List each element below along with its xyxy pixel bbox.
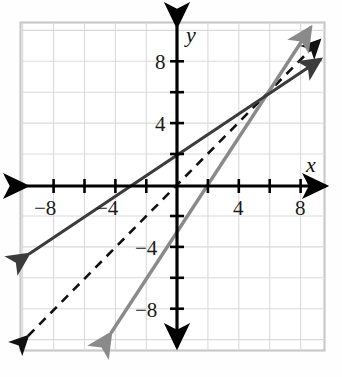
x-tick-label-neg8: −8 — [34, 196, 56, 221]
x-axis-label: x — [306, 152, 316, 178]
coordinate-plane-figure: −8 −4 4 8 8 4 −4 −8 y x — [0, 0, 342, 377]
y-tick-label-neg8: −8 — [135, 298, 157, 323]
y-axis-label: y — [186, 22, 196, 48]
graph-canvas — [0, 0, 342, 377]
x-tick-label-4: 4 — [233, 196, 244, 221]
y-tick-label-neg4: −4 — [135, 236, 157, 261]
y-tick-label-4: 4 — [155, 112, 166, 137]
x-tick-label-neg4: −4 — [96, 196, 118, 221]
x-tick-label-8: 8 — [295, 196, 306, 221]
y-tick-label-8: 8 — [155, 50, 166, 75]
